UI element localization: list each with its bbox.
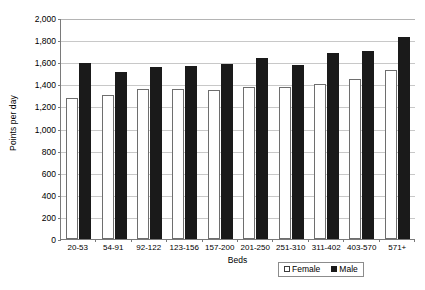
bar-group: [132, 19, 167, 239]
bar-male: [185, 66, 197, 239]
bar-male: [327, 53, 339, 239]
x-axis-tick-label: 54-91: [96, 243, 132, 252]
x-axis-tick-label: 201-250: [238, 243, 274, 252]
x-axis-tick-label: 157-200: [202, 243, 238, 252]
bar-male: [221, 64, 233, 239]
bar-male: [256, 58, 268, 239]
y-axis-tick-label: 1,600: [10, 59, 56, 68]
bar-group: [61, 19, 96, 239]
bar-male: [398, 37, 410, 239]
bar-group: [309, 19, 344, 239]
bar-group: [273, 19, 308, 239]
bar-male: [362, 51, 374, 239]
x-axis-tick-label: 92-122: [131, 243, 167, 252]
y-axis-tick-label: 1,800: [10, 37, 56, 46]
x-axis-tick-mark: [308, 239, 309, 242]
y-axis-tick-label: 400: [10, 192, 56, 201]
legend-label: Male: [339, 264, 357, 274]
y-axis-tick-label: 2,000: [10, 15, 56, 24]
x-axis-tick-label: 123-156: [167, 243, 203, 252]
x-axis-tick-mark: [95, 239, 96, 242]
hollow-square-icon: [284, 266, 290, 272]
legend-label: Female: [292, 264, 320, 274]
x-axis-tick-mark: [272, 239, 273, 242]
x-axis-tick-label: 403-570: [344, 243, 380, 252]
bar-group: [167, 19, 202, 239]
x-axis-tick-label: 311-402: [309, 243, 345, 252]
bar-male: [115, 72, 127, 239]
bar-female: [349, 79, 361, 239]
x-axis-tick-mark: [237, 239, 238, 242]
bar-group: [203, 19, 238, 239]
filled-square-icon: [331, 266, 337, 272]
bar-group: [344, 19, 379, 239]
plot-area: [60, 19, 415, 240]
bar-female: [66, 98, 78, 239]
bar-female: [243, 87, 255, 239]
bar-chart: Points per day 2,0001,8001,6001,4001,200…: [0, 0, 425, 290]
bar-male: [292, 65, 304, 239]
legend-item-female: Female: [284, 264, 320, 274]
bars-layer: [61, 19, 415, 239]
x-axis-tick-mark: [131, 239, 132, 242]
x-axis-tick-mark: [379, 239, 380, 242]
x-axis-tick-labels: 20-5354-9192-122123-156157-200201-250251…: [60, 243, 415, 252]
bar-male: [79, 63, 91, 239]
y-axis-tick-label: 800: [10, 148, 56, 157]
y-axis-tick-label: 1,200: [10, 103, 56, 112]
x-axis-tick-label: 20-53: [60, 243, 96, 252]
x-axis-tick-label: 571+: [380, 243, 416, 252]
bar-female: [172, 89, 184, 239]
bar-group: [238, 19, 273, 239]
y-axis-tick-label: 1,000: [10, 126, 56, 135]
bar-female: [208, 90, 220, 239]
bar-group: [380, 19, 415, 239]
bar-female: [102, 95, 114, 239]
bar-female: [385, 70, 397, 239]
y-axis-tick-label: 1,400: [10, 81, 56, 90]
bar-female: [279, 87, 291, 239]
x-axis-tick-mark: [343, 239, 344, 242]
chart-legend: FemaleMale: [278, 262, 364, 277]
bar-female: [137, 89, 149, 239]
x-axis-tick-mark: [166, 239, 167, 242]
x-axis-tick-label: 251-310: [273, 243, 309, 252]
y-axis-tick-label: 0: [10, 236, 56, 245]
y-axis-tick-label: 600: [10, 170, 56, 179]
legend-item-male: Male: [331, 264, 357, 274]
bar-group: [96, 19, 131, 239]
y-axis-tick-label: 200: [10, 214, 56, 223]
y-axis-tick-mark: [58, 240, 61, 241]
x-axis-tick-mark: [202, 239, 203, 242]
x-axis-tick-mark: [414, 239, 415, 242]
bar-female: [314, 84, 326, 239]
bar-male: [150, 67, 162, 239]
